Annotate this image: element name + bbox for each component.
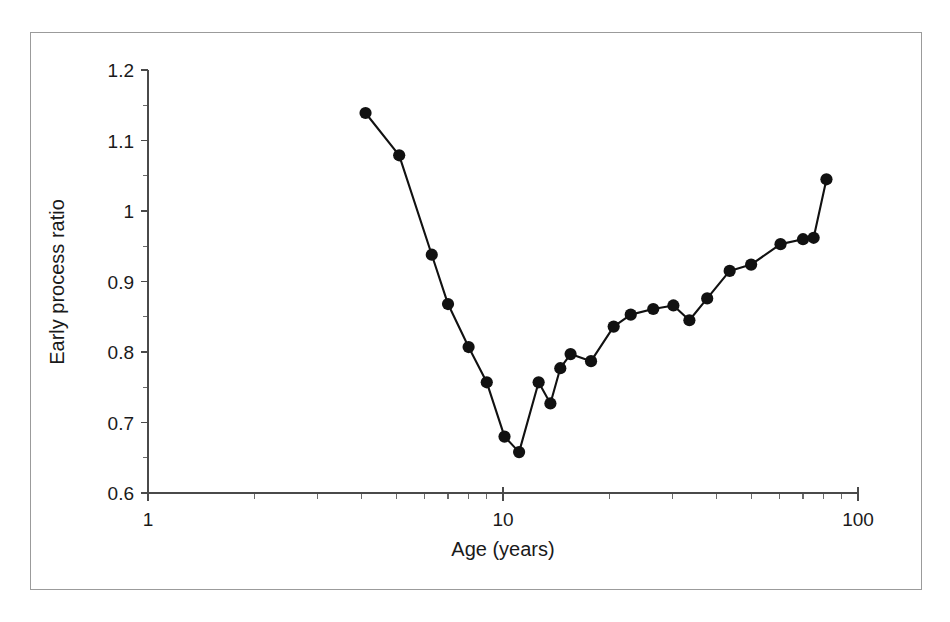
x-tick-label: 100 — [842, 509, 874, 530]
data-point — [625, 309, 637, 321]
data-point — [820, 173, 832, 185]
y-axis-title: Early process ratio — [46, 199, 68, 365]
y-tick-label: 0.6 — [108, 483, 134, 504]
data-point — [585, 355, 597, 367]
data-point — [808, 232, 820, 244]
x-tick-label: 1 — [143, 509, 154, 530]
y-tick-label: 1.1 — [108, 131, 134, 152]
data-point — [564, 348, 576, 360]
y-tick-label: 0.7 — [108, 413, 134, 434]
data-point — [701, 292, 713, 304]
data-point — [745, 258, 757, 270]
data-point — [667, 299, 679, 311]
chart-canvas: 0.60.70.80.911.11.2 110100 Age (years) E… — [0, 0, 950, 622]
y-tick-label: 0.8 — [108, 342, 134, 363]
data-point — [393, 149, 405, 161]
data-point — [498, 431, 510, 443]
data-point — [774, 238, 786, 250]
y-axis-tick-labels: 0.60.70.80.911.11.2 — [108, 60, 134, 504]
data-point — [463, 341, 475, 353]
data-point — [554, 362, 566, 374]
data-point — [481, 376, 493, 388]
y-tick-label: 1 — [123, 201, 134, 222]
data-point — [608, 321, 620, 333]
y-axis-major-ticks — [141, 70, 148, 493]
x-axis-tick-labels: 110100 — [143, 509, 874, 530]
data-point — [647, 303, 659, 315]
y-tick-label: 1.2 — [108, 60, 134, 81]
data-point — [442, 298, 454, 310]
data-point — [544, 397, 556, 409]
data-series-line — [366, 113, 827, 452]
data-point — [359, 107, 371, 119]
data-series-markers — [359, 107, 832, 458]
x-axis-minor-ticks — [255, 493, 842, 499]
data-point — [426, 249, 438, 261]
x-axis-title: Age (years) — [451, 538, 554, 560]
data-point — [513, 446, 525, 458]
y-tick-label: 0.9 — [108, 272, 134, 293]
data-point — [797, 233, 809, 245]
data-point — [724, 265, 736, 277]
data-point — [533, 376, 545, 388]
figure-root: 0.60.70.80.911.11.2 110100 Age (years) E… — [0, 0, 950, 622]
data-point — [683, 314, 695, 326]
x-tick-label: 10 — [492, 509, 513, 530]
